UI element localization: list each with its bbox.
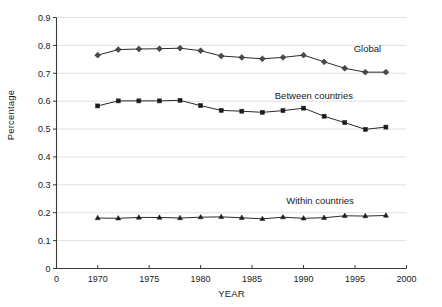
data-point-within-countries-1982	[219, 214, 224, 218]
y-tick-label: 0.6	[38, 96, 51, 106]
data-point-between-countries-1992	[322, 114, 326, 118]
data-point-within-countries-1998	[383, 213, 388, 217]
data-point-between-countries-1990	[302, 106, 306, 110]
y-tick-label: 0.9	[38, 13, 51, 23]
y-tick-label: 0.3	[38, 180, 51, 190]
data-point-global-1982	[218, 53, 224, 59]
data-point-between-countries-1984	[240, 109, 244, 113]
data-point-global-1972	[115, 47, 121, 53]
axes-group	[53, 18, 407, 269]
x-tick-label: 2000	[396, 274, 416, 284]
series-between-countries	[96, 98, 388, 131]
data-point-between-countries-1988	[281, 109, 285, 113]
series-annotations-group: GlobalBetween countriesWithin countries	[275, 43, 381, 205]
y-tick-label: 0	[45, 264, 50, 274]
data-point-between-countries-1994	[343, 121, 347, 125]
y-tick-label: 0.8	[38, 41, 51, 51]
data-point-global-1998	[383, 69, 389, 75]
y-tick-label: 0.5	[38, 124, 51, 134]
x-tick-labels-group: 01970197519801985199019952000	[54, 274, 417, 284]
y-tick-label: 0.2	[38, 208, 51, 218]
data-point-within-countries-1974	[136, 215, 141, 219]
series-annotation-within-countries: Within countries	[286, 195, 354, 206]
y-tick-label: 0.4	[38, 152, 51, 162]
data-point-global-1980	[198, 48, 204, 54]
series-annotation-global: Global	[354, 43, 381, 54]
series-line-between-countries	[98, 100, 386, 129]
data-point-global-1978	[177, 45, 183, 51]
series-global	[95, 45, 389, 75]
data-point-between-countries-1980	[199, 104, 203, 108]
data-point-global-1992	[321, 59, 327, 65]
y-tick-label: 0.7	[38, 69, 51, 79]
y-axis-title: Percentage	[5, 90, 16, 141]
data-point-global-1974	[136, 46, 142, 52]
x-tick-label: 1970	[88, 274, 108, 284]
data-point-within-countries-1980	[198, 214, 203, 218]
data-point-between-countries-1998	[384, 125, 388, 129]
x-tick-label: 1980	[191, 274, 211, 284]
y-tick-label: 0.1	[38, 236, 51, 246]
chart-canvas: 00.10.20.30.40.50.60.70.80.9 01970197519…	[0, 0, 442, 307]
x-tick-label: 0	[54, 274, 59, 284]
data-point-between-countries-1996	[363, 127, 367, 131]
data-point-between-countries-1972	[116, 99, 120, 103]
data-point-within-countries-1970	[95, 215, 100, 219]
data-point-global-1976	[157, 46, 163, 52]
data-point-between-countries-1976	[157, 99, 161, 103]
data-point-between-countries-1978	[178, 98, 182, 102]
data-point-global-1996	[362, 69, 368, 75]
data-point-within-countries-1976	[157, 215, 162, 219]
data-point-global-1988	[280, 54, 286, 60]
data-point-between-countries-1982	[219, 108, 223, 112]
x-tick-label: 1985	[242, 274, 262, 284]
data-point-between-countries-1970	[96, 104, 100, 108]
data-point-global-1994	[342, 65, 348, 71]
series-annotation-between-countries: Between countries	[275, 90, 353, 101]
data-point-global-1986	[259, 56, 265, 62]
x-axis-title: YEAR	[218, 288, 245, 299]
series-within-countries	[95, 213, 388, 221]
line-chart: 00.10.20.30.40.50.60.70.80.9 01970197519…	[0, 0, 442, 307]
data-point-between-countries-1986	[260, 110, 264, 114]
data-point-global-1990	[301, 52, 307, 58]
data-point-between-countries-1974	[137, 99, 141, 103]
data-point-within-countries-1988	[280, 214, 285, 218]
x-tick-label: 1990	[294, 274, 314, 284]
data-point-global-1984	[239, 54, 245, 60]
x-tick-label: 1995	[345, 274, 365, 284]
x-tick-label: 1975	[139, 274, 159, 284]
data-point-within-countries-1994	[342, 213, 347, 217]
data-point-global-1970	[95, 52, 101, 58]
y-tick-labels-group: 00.10.20.30.40.50.60.70.80.9	[38, 13, 51, 274]
